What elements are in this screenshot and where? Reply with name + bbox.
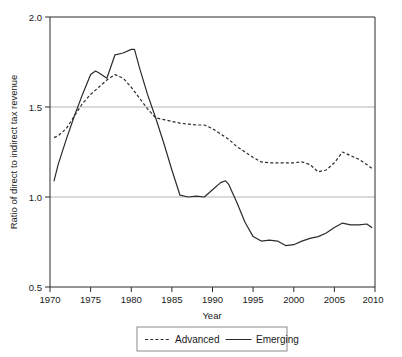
- x-tick-label-1985: 1985: [161, 294, 182, 305]
- x-tick-marks: [50, 287, 375, 292]
- y-tick-label-2-0: 2.0: [29, 12, 42, 23]
- x-tick-label-1970: 1970: [39, 294, 60, 305]
- x-tick-label-1975: 1975: [80, 294, 101, 305]
- y-tick-marks: [45, 17, 50, 287]
- x-tick-label-2000: 2000: [283, 294, 304, 305]
- x-tick-label-1980: 1980: [121, 294, 142, 305]
- y-tick-label-1-5: 1.5: [29, 102, 42, 113]
- y-tick-label-0-5: 0.5: [29, 282, 42, 293]
- line-chart: 2.0 1.5 1.0 0.5 1970 1975 1980 1985 1990…: [0, 0, 402, 357]
- x-tick-label-2010: 2010: [362, 294, 383, 305]
- legend-label-emerging: Emerging: [256, 334, 299, 345]
- plot-area-background: [50, 17, 375, 287]
- y-tick-label-1-0: 1.0: [29, 192, 42, 203]
- chart-figure: 2.0 1.5 1.0 0.5 1970 1975 1980 1985 1990…: [0, 0, 402, 357]
- y-tick-labels: 2.0 1.5 1.0 0.5: [29, 12, 42, 293]
- legend-label-advanced: Advanced: [175, 334, 219, 345]
- x-tick-label-2005: 2005: [324, 294, 345, 305]
- y-axis-title: Ratio of direct to indirect tax revenue: [8, 75, 19, 230]
- x-tick-label-1995: 1995: [243, 294, 264, 305]
- chart-legend: Advanced Emerging: [137, 327, 299, 351]
- x-tick-label-1990: 1990: [202, 294, 223, 305]
- x-tick-labels: 1970 1975 1980 1985 1990 1995 2000 2005 …: [39, 294, 383, 305]
- x-axis-title: Year: [202, 310, 221, 321]
